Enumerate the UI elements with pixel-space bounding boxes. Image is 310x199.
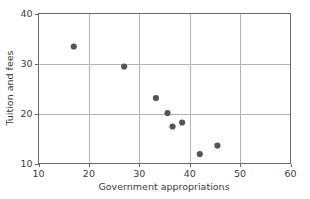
data-point xyxy=(179,119,185,125)
y-tick-label: 40 xyxy=(20,8,32,19)
plot-border xyxy=(39,14,291,164)
data-point xyxy=(197,151,203,157)
y-tick-label: 20 xyxy=(20,108,32,119)
y-axis-title: Tuition and fees xyxy=(4,50,15,126)
data-point xyxy=(164,110,170,116)
data-point xyxy=(71,43,77,49)
tick-marks xyxy=(35,15,292,168)
plot-canvas: 102030405060 10203040 Government appropr… xyxy=(0,0,310,199)
y-tick-label: 10 xyxy=(20,158,32,169)
scatter-plot-figure: 102030405060 10203040 Government appropr… xyxy=(0,0,310,199)
x-tick-label: 40 xyxy=(184,168,196,179)
x-tick-label: 30 xyxy=(133,168,145,179)
data-point xyxy=(214,142,220,148)
x-tick-label: 20 xyxy=(83,168,95,179)
data-point xyxy=(121,63,127,69)
x-tick-label: 10 xyxy=(32,168,44,179)
x-tick-label: 60 xyxy=(284,168,296,179)
plot-frame xyxy=(39,14,291,164)
data-point-series xyxy=(71,43,221,157)
data-point xyxy=(169,123,175,129)
x-axis-title: Government appropriations xyxy=(98,181,229,192)
y-axis-tick-labels: 10203040 xyxy=(20,8,32,169)
y-tick-label: 30 xyxy=(20,58,32,69)
x-tick-label: 50 xyxy=(234,168,246,179)
data-point xyxy=(153,95,159,101)
x-axis-tick-labels: 102030405060 xyxy=(32,168,296,179)
grid-lines xyxy=(39,14,291,164)
